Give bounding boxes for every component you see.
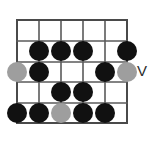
note-r2-c6[interactable] [117,41,137,61]
fretboard-svg: V [0,0,156,142]
note-r3-c5[interactable] [95,62,115,82]
note-r4-c3[interactable] [51,82,71,102]
note-r2-c4[interactable] [73,41,93,61]
note-r3-c2[interactable] [29,62,49,82]
note-r2-c3[interactable] [51,41,71,61]
note-r3-c6[interactable] [117,62,137,82]
position-marker: V [137,62,147,79]
note-r5-c3[interactable] [51,103,71,123]
note-r5-c5[interactable] [95,103,115,123]
note-r3-c1[interactable] [7,62,27,82]
fretboard-diagram: V [0,0,156,142]
position-marker-label: V [137,62,147,79]
note-r5-c1[interactable] [7,103,27,123]
note-r4-c4[interactable] [73,82,93,102]
note-r5-c4[interactable] [73,103,93,123]
note-r5-c2[interactable] [29,103,49,123]
note-r2-c2[interactable] [29,41,49,61]
